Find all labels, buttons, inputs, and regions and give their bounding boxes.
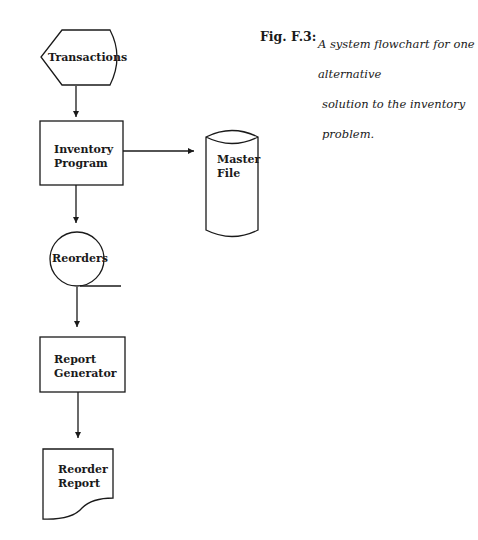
inventory-program-line2: Program: [54, 157, 113, 171]
master-file-label: Master File: [217, 153, 260, 181]
figure-number: Fig. F.3:: [260, 29, 316, 44]
master-file-cylinder: [206, 131, 258, 237]
inventory-program-line1: Inventory: [54, 143, 113, 157]
figure-caption-line1: A system flowchart for one alternative: [318, 29, 478, 89]
report-generator-line1: Report: [54, 353, 117, 367]
master-file-line1: Master: [217, 153, 260, 167]
reorder-report-line1: Reorder: [58, 463, 108, 477]
transactions-label: Transactions: [48, 51, 127, 65]
reorder-report-label: Reorder Report: [58, 463, 108, 491]
inventory-program-label: Inventory Program: [54, 143, 113, 171]
report-generator-label: Report Generator: [54, 353, 117, 381]
figure-caption-line2: solution to the inventory problem.: [318, 89, 478, 149]
reorder-report-line2: Report: [58, 477, 108, 491]
figure-caption: A system flowchart for one alternative s…: [318, 29, 478, 149]
reorders-label: Reorders: [52, 252, 108, 266]
report-generator-line2: Generator: [54, 367, 117, 381]
master-file-line2: File: [217, 167, 260, 181]
